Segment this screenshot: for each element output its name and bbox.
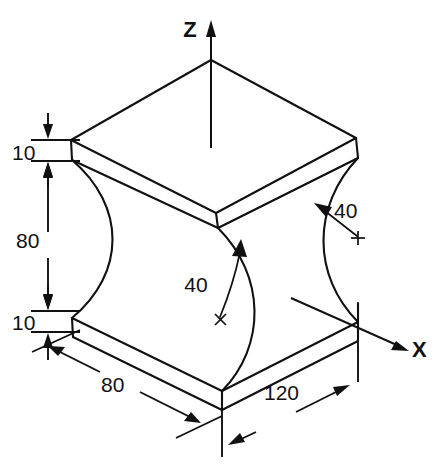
z-axis-arrowhead — [206, 20, 216, 37]
solid-body — [71, 60, 358, 410]
width-arrow-right — [333, 385, 350, 396]
x-axis-arrowhead — [391, 341, 409, 351]
depth-dimension-line-lower — [140, 392, 192, 418]
depth-arrow-left — [48, 346, 65, 356]
dim-text-top-flange: 10 — [12, 141, 35, 164]
depth-arrow-right — [184, 412, 201, 423]
arrow-top-flange-upper — [43, 124, 53, 139]
depth-dimension-line-upper — [58, 351, 100, 372]
x-axis-label: X — [412, 337, 427, 362]
top-slab-left-corner-edge — [71, 140, 72, 160]
dim-text-front-radius: 40 — [184, 273, 207, 296]
dim-text-right-radius: 40 — [334, 199, 357, 222]
technical-drawing-canvas: Z X 10 80 — [0, 0, 439, 465]
dim-text-width: 120 — [264, 381, 299, 404]
width-arrow-left — [228, 433, 245, 445]
z-axis-label: Z — [183, 17, 196, 42]
arrow-web-upper — [43, 162, 53, 178]
dim-text-depth: 80 — [101, 373, 124, 396]
dim-text-web-height: 80 — [16, 229, 39, 252]
arrow-bottom-flange-upper — [43, 295, 53, 310]
width-dimension-line-right — [296, 390, 340, 412]
depth-extension-line-front — [176, 416, 222, 438]
vertical-dimension-chain: 10 80 10 — [12, 113, 80, 360]
isometric-drawing-svg: Z X 10 80 — [0, 0, 439, 465]
dim-text-bottom-flange: 10 — [12, 311, 35, 334]
